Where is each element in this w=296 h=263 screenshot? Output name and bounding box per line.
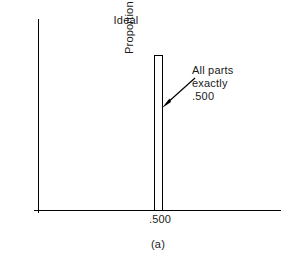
figure-caption: (a)	[0, 238, 296, 251]
figure-caption-text: (a)	[151, 238, 165, 250]
chart-figure: Ideal Proportion of parts .500 All parts…	[0, 0, 296, 263]
y-axis-label-text: Proportion of parts	[122, 0, 136, 54]
annotation-line-3: .500	[192, 90, 234, 103]
annotation-line-2: exactly	[192, 77, 234, 90]
annotation-line-1: All parts	[192, 64, 234, 77]
chart-title: Ideal	[0, 14, 296, 27]
annotation-text: All parts exactly .500	[192, 64, 234, 103]
y-axis-label: Proportion of parts	[26, 0, 40, 54]
x-tick-label-500: .500	[132, 213, 188, 226]
